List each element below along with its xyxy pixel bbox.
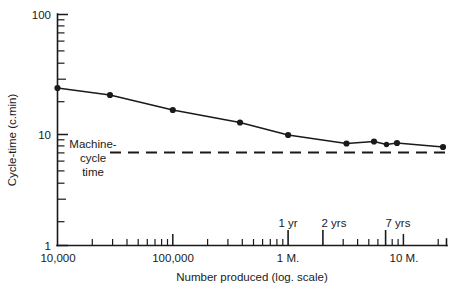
data-point	[54, 85, 60, 91]
annotation-2yrs: 2 yrs	[322, 217, 347, 229]
year-annotations: 1 yr 2 yrs 7 yrs	[278, 217, 410, 229]
data-point	[107, 92, 113, 98]
y-axis-tick-labels: 100 10 1	[32, 9, 51, 252]
data-point	[371, 138, 377, 144]
y-axis-ticks	[58, 15, 69, 246]
data-point	[394, 140, 400, 146]
cycle-time-log-log-chart: 100 10 1 Cycle-time (c.min)	[0, 0, 470, 289]
x-tick-label-10m: 10 M.	[390, 252, 419, 264]
ref-label-line-1: Machine-	[69, 138, 116, 150]
x-axis-tick-labels: 10,000 100,000 1 M. 10 M.	[40, 252, 418, 264]
y-tick-label-1: 1	[45, 240, 51, 252]
x-tick-label-10000: 10,000	[40, 252, 75, 264]
ref-label-line-2: cycle	[80, 152, 106, 164]
annotation-7yrs: 7 yrs	[386, 217, 411, 229]
data-point	[343, 140, 349, 146]
data-point	[170, 107, 176, 113]
y-tick-label-10: 10	[38, 129, 51, 141]
y-tick-label-100: 100	[32, 9, 51, 21]
annotation-1yr: 1 yr	[278, 217, 297, 229]
y-axis-title: Cycle-time (c.min)	[6, 94, 18, 187]
chart-container: 100 10 1 Cycle-time (c.min)	[0, 0, 470, 289]
x-tick-label-1m: 1 M.	[277, 252, 299, 264]
data-point	[237, 119, 243, 125]
data-point	[384, 142, 389, 147]
data-point	[285, 132, 291, 138]
machine-cycle-time-label: Machine- cycle time	[69, 138, 116, 178]
x-axis-title: Number produced (log. scale)	[176, 271, 328, 283]
data-point	[440, 144, 446, 150]
ref-label-line-3: time	[82, 166, 104, 178]
x-axis-ticks	[92, 230, 438, 246]
axis-lines	[57, 14, 447, 246]
x-tick-label-100000: 100,000	[152, 252, 194, 264]
